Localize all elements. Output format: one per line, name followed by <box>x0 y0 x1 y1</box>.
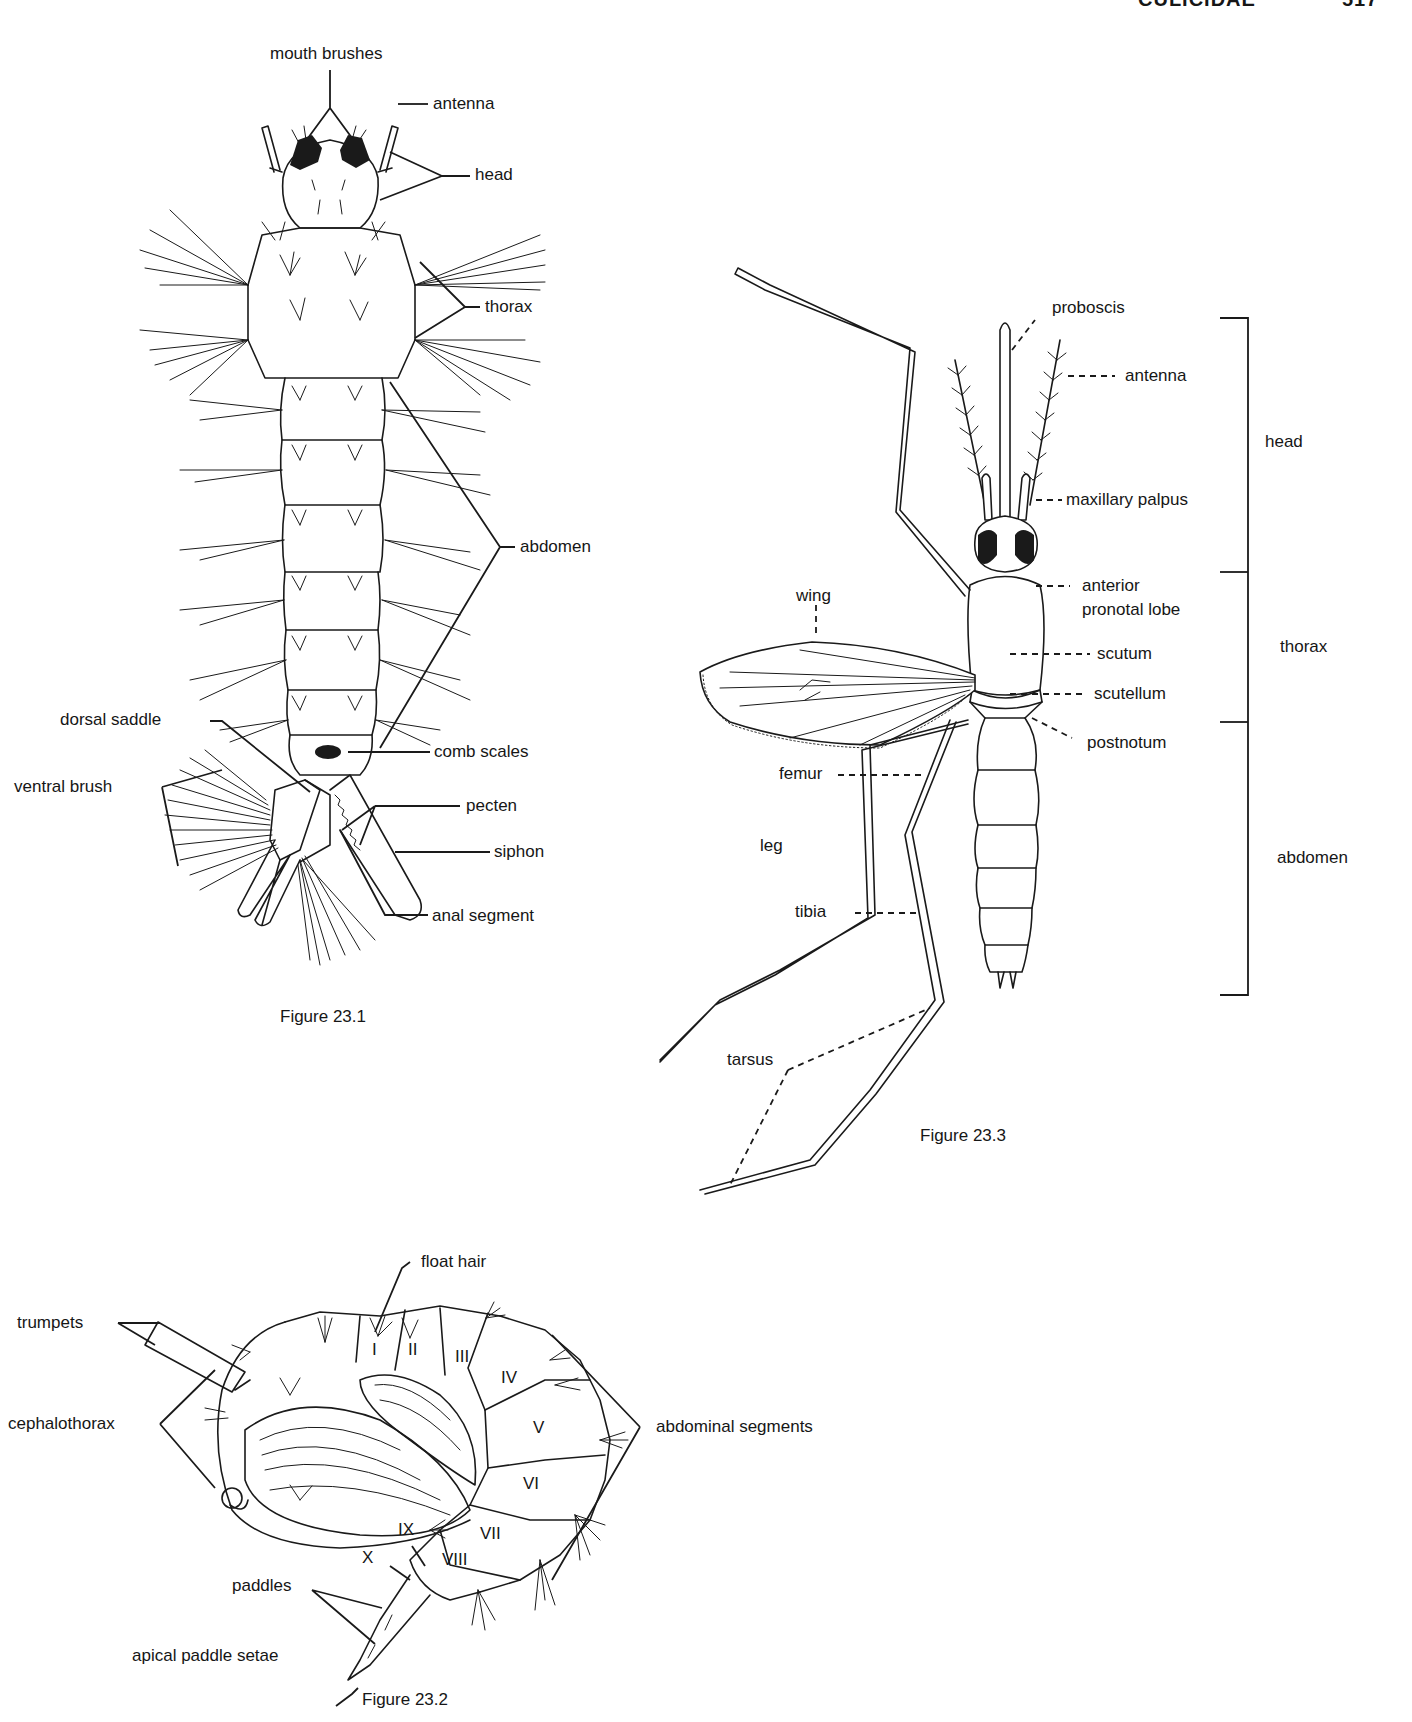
adult-thorax-scutum <box>968 577 1044 696</box>
label-segment-vii: VII <box>480 1524 501 1544</box>
label-thorax-larva: thorax <box>485 297 532 317</box>
adult-maxillary-palpus-right <box>1018 474 1030 520</box>
adult-abdomen <box>974 718 1039 988</box>
caption-figure-23-1: Figure 23.1 <box>280 1007 366 1027</box>
adult-proboscis <box>1000 323 1010 520</box>
label-segment-ii: II <box>408 1340 417 1360</box>
leader-seg-x <box>390 1566 410 1580</box>
leader-postnotum <box>1032 718 1072 738</box>
label-paddles: paddles <box>232 1576 292 1596</box>
larva-comb-scales <box>315 745 341 759</box>
leader-abdomen <box>380 382 515 748</box>
adult-leader-lines <box>730 320 1115 1185</box>
label-segment-i: I <box>372 1340 377 1360</box>
label-dorsal-saddle: dorsal saddle <box>60 710 161 730</box>
adult-postnotum <box>970 702 1042 718</box>
label-tarsus: tarsus <box>727 1050 773 1070</box>
leader-head <box>380 152 470 200</box>
adult-front-leg <box>735 268 970 596</box>
pupa-eye <box>222 1488 242 1508</box>
label-segment-iii: III <box>455 1347 469 1367</box>
label-segment-viii: VIII <box>442 1550 468 1570</box>
adult-antenna-right <box>1030 340 1060 505</box>
leader-anal-segment <box>340 830 428 915</box>
adult-antenna-left <box>955 360 985 505</box>
leader-mouth-brushes <box>308 70 352 138</box>
pupa-paddles <box>348 1575 430 1680</box>
label-antenna-adult: antenna <box>1125 366 1186 386</box>
illustration-canvas <box>0 0 1412 1722</box>
label-segment-vi: VI <box>523 1474 539 1494</box>
leader-cephalothorax <box>160 1370 215 1488</box>
larva-ventral-brush <box>165 750 375 965</box>
label-wing: wing <box>796 586 831 606</box>
leader-trumpets <box>118 1323 160 1345</box>
label-comb-scales: comb scales <box>434 742 528 762</box>
label-anterior-pronotal-lobe-line2: pronotal lobe <box>1082 600 1180 620</box>
caption-figure-23-2: Figure 23.2 <box>362 1690 448 1710</box>
label-siphon: siphon <box>494 842 544 862</box>
label-segment-iv: IV <box>501 1368 517 1388</box>
leader-apical-paddle-setae <box>336 1688 358 1706</box>
label-trumpets: trumpets <box>17 1313 83 1333</box>
adult-maxillary-palpus-left <box>982 474 992 520</box>
pupa-abdomen <box>356 1308 610 1600</box>
leader-tarsus <box>730 1008 930 1185</box>
adult-region-brackets <box>1220 318 1248 995</box>
adult-hind-leg <box>700 720 956 1194</box>
label-segment-ix: IX <box>398 1520 414 1540</box>
caption-figure-23-3: Figure 23.3 <box>920 1126 1006 1146</box>
label-pecten: pecten <box>466 796 517 816</box>
leader-dorsal-saddle <box>210 721 310 792</box>
label-tibia: tibia <box>795 902 826 922</box>
label-femur: femur <box>779 764 822 784</box>
larva-drawing <box>140 70 545 965</box>
label-segment-x: X <box>362 1548 373 1568</box>
label-abdominal-segments: abdominal segments <box>656 1417 813 1437</box>
label-region-abdomen: abdomen <box>1277 848 1348 868</box>
pupa-cephalothorax <box>218 1322 470 1548</box>
larva-antenna-right <box>380 126 398 172</box>
label-float-hair: float hair <box>421 1252 486 1272</box>
label-scutellum: scutellum <box>1094 684 1166 704</box>
larva-thorax <box>248 228 415 378</box>
label-leg: leg <box>760 836 783 856</box>
leader-pecten <box>342 806 460 845</box>
larva-mouth-brush-right <box>340 135 370 168</box>
label-antenna-larva: antenna <box>433 94 494 114</box>
label-region-thorax: thorax <box>1280 637 1327 657</box>
pupa-leader-lines <box>118 1262 640 1706</box>
label-scutum: scutum <box>1097 644 1152 664</box>
label-abdomen-larva: abdomen <box>520 537 591 557</box>
larva-abdomen <box>281 378 385 775</box>
label-apical-paddle-setae: apical paddle setae <box>132 1646 279 1666</box>
label-anterior-pronotal-lobe-line1: anterior <box>1082 576 1140 596</box>
label-anal-segment: anal segment <box>432 906 534 926</box>
label-maxillary-palpus: maxillary palpus <box>1066 490 1188 510</box>
leader-float-hair <box>375 1262 410 1332</box>
bracket-body <box>1220 318 1248 995</box>
label-head-larva: head <box>475 165 513 185</box>
leader-thorax <box>415 262 480 338</box>
label-segment-v: V <box>533 1418 544 1438</box>
label-region-head: head <box>1265 432 1303 452</box>
larva-thorax-setae-left <box>140 210 248 395</box>
label-proboscis: proboscis <box>1052 298 1125 318</box>
larva-leader-lines <box>162 70 515 915</box>
pupa-trumpet <box>145 1322 250 1392</box>
leader-proboscis <box>1012 320 1035 350</box>
larva-antenna-left <box>262 126 280 172</box>
label-cephalothorax: cephalothorax <box>8 1414 115 1434</box>
label-postnotum: postnotum <box>1087 733 1166 753</box>
pupa-leg-case <box>360 1375 476 1485</box>
pupa-drawing <box>118 1262 640 1706</box>
leader-abdominal-segments <box>552 1335 640 1580</box>
larva-thorax-setae-right <box>415 235 545 400</box>
label-ventral-brush: ventral brush <box>14 777 112 797</box>
label-mouth-brushes: mouth brushes <box>270 44 382 64</box>
